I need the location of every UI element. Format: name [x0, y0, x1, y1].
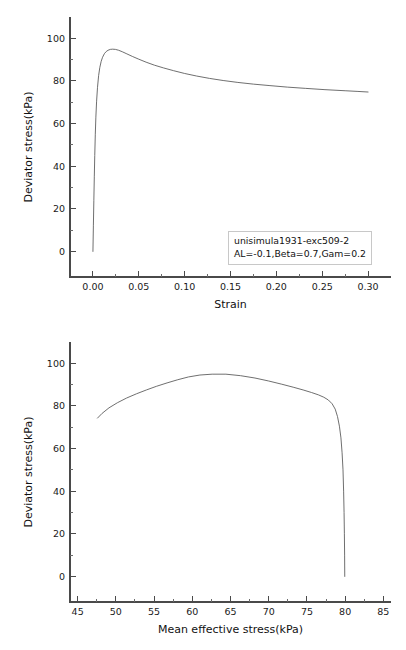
data-series-curve — [98, 374, 345, 576]
y-tick-label: 80 — [53, 75, 65, 86]
y-axis-title: Deviator stress(kPa) — [22, 92, 35, 203]
figure-page: 0.000.050.100.150.200.250.30020406080100… — [0, 0, 406, 650]
plot-canvas-1: 0.000.050.100.150.200.250.30020406080100… — [0, 0, 406, 325]
chart-deviator-stress-vs-strain: 0.000.050.100.150.200.250.30020406080100… — [0, 0, 406, 325]
y-tick-label: 100 — [47, 358, 65, 369]
x-tick-label: 80 — [339, 606, 351, 617]
x-tick-label: 0.30 — [357, 281, 378, 292]
annotation-line-1: unisimula1931-exc509-2 — [234, 235, 366, 248]
x-tick-label: 50 — [110, 606, 122, 617]
x-tick-label: 0.15 — [220, 281, 241, 292]
x-tick-label: 55 — [148, 606, 160, 617]
plot-canvas-2: 455055606570758085020406080100Mean effec… — [0, 325, 406, 650]
x-tick-label: 0.00 — [82, 281, 103, 292]
y-tick-label: 60 — [53, 118, 65, 129]
x-tick-label: 0.25 — [312, 281, 333, 292]
x-tick-label: 70 — [263, 606, 275, 617]
x-tick-label: 0.20 — [266, 281, 287, 292]
y-tick-label: 0 — [59, 571, 65, 582]
y-tick-label: 40 — [53, 161, 65, 172]
y-axis-title: Deviator stress(kPa) — [22, 417, 35, 528]
y-tick-label: 20 — [53, 203, 65, 214]
chart-deviator-stress-vs-mean-effective-stress: 455055606570758085020406080100Mean effec… — [0, 325, 406, 650]
y-tick-label: 0 — [59, 246, 65, 257]
y-tick-label: 60 — [53, 443, 65, 454]
x-axis-title: Strain — [214, 298, 247, 311]
y-tick-label: 40 — [53, 486, 65, 497]
x-tick-label: 75 — [301, 606, 313, 617]
x-tick-label: 65 — [224, 606, 236, 617]
x-tick-label: 0.10 — [174, 281, 195, 292]
x-tick-label: 45 — [72, 606, 84, 617]
annotation-box-1: unisimula1931-exc509-2 AL=-0.1,Beta=0.7,… — [228, 231, 372, 265]
y-tick-label: 20 — [53, 528, 65, 539]
data-series-curve — [93, 49, 368, 251]
x-tick-label: 0.05 — [128, 281, 149, 292]
annotation-line-2: AL=-0.1,Beta=0.7,Gam=0.2 — [234, 248, 366, 261]
x-tick-label: 60 — [186, 606, 198, 617]
x-tick-label: 85 — [377, 606, 389, 617]
x-axis-title: Mean effective stress(kPa) — [158, 623, 303, 636]
y-tick-label: 100 — [47, 33, 65, 44]
y-tick-label: 80 — [53, 400, 65, 411]
